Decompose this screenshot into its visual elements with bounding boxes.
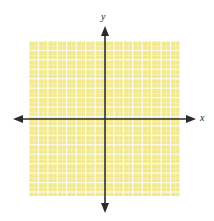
x-axis-label: x: [200, 113, 204, 123]
y-axis-top-arrowhead: [101, 26, 109, 36]
y-axis-label: y: [101, 12, 105, 22]
x-axis-right-arrowhead: [186, 115, 196, 123]
graph-grid-background: [29, 41, 180, 196]
x-axis-left-arrowhead: [13, 115, 23, 123]
y-axis-bottom-arrowhead: [101, 203, 109, 213]
graph-figure: y x: [0, 0, 214, 221]
